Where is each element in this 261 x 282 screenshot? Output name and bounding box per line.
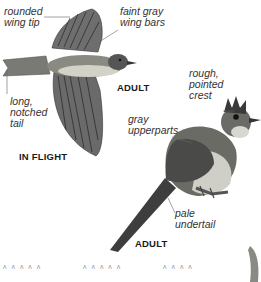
caption-in-flight: IN FLIGHT (19, 151, 67, 162)
label-gray-upperparts: gray upperparts (128, 114, 178, 136)
grass-marks-3: ʌ ʌ ʌ ʌ (163, 263, 193, 270)
partial-illustration-edge (248, 246, 259, 282)
label-rough-pointed-crest: rough, pointed crest (189, 68, 223, 101)
grass-marks-2: ʌ ʌ ʌ ʌ ʌ (83, 263, 122, 270)
label-faint-gray-wing-bars: faint gray wing bars (120, 6, 165, 28)
label-pale-undertail: pale undertail (175, 208, 215, 230)
illustration-canvas (0, 0, 261, 282)
label-rounded-wing-tip: rounded wing tip (4, 6, 43, 28)
label-long-notched-tail: long, notched tail (10, 96, 47, 129)
caption-flight-adult: ADULT (117, 82, 149, 93)
caption-perched-adult: ADULT (135, 238, 167, 249)
grass-marks-1: ʌ ʌ ʌ ʌ ʌ (3, 263, 42, 270)
